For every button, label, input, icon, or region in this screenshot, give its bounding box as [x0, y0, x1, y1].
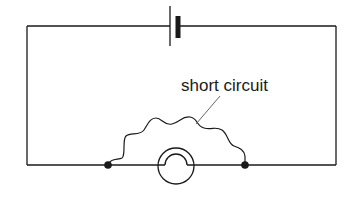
- bulb-icon: [158, 148, 194, 184]
- circuit-wires: [27, 26, 336, 165]
- junction-dot-left: [104, 161, 112, 169]
- circuit-diagram: [0, 0, 356, 201]
- short-circuit-label: short circuit: [181, 77, 268, 94]
- label-leader-line: [196, 96, 220, 124]
- junction-dot-right: [241, 161, 249, 169]
- battery-icon: [170, 6, 181, 46]
- short-circuit-wire: [108, 117, 245, 165]
